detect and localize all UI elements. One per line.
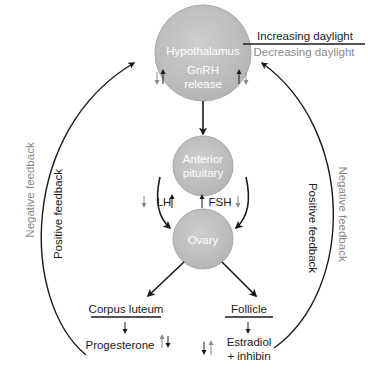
pituitary-label-line2: pituitary: [183, 167, 224, 179]
fsh-decrease-icon: [236, 196, 241, 208]
left-positive-feedback-label: Positive feedback: [52, 169, 64, 259]
hypothalamus-node: Hypothalamus GnRH release: [155, 5, 252, 101]
reproductive-axis-diagram: Hypothalamus GnRH release Anterior pitui…: [0, 0, 368, 380]
pituitary-label-line1: Anterior: [183, 153, 223, 165]
increasing-daylight-label: Increasing daylight: [257, 30, 354, 42]
fsh-label: FSH: [209, 196, 232, 208]
daylight-legend: Increasing daylight Decreasing daylight: [243, 30, 365, 58]
decreasing-daylight-label: Decreasing daylight: [253, 46, 355, 58]
right-negative-feedback-label: Negative feedback: [337, 166, 349, 262]
right-feedback-curve: [262, 63, 333, 348]
lh-decrease-icon: [142, 196, 147, 208]
ovary-label: Ovary: [188, 234, 219, 246]
progesterone-decrease-icon: [166, 336, 171, 348]
ovary-to-corpus-luteum-arrow: [148, 262, 184, 296]
ovary-to-follicle-arrow: [222, 262, 256, 296]
release-label: release: [184, 78, 222, 90]
progesterone-label: Progesterone: [85, 339, 154, 351]
estradiol-decrease-icon: [202, 342, 207, 355]
estradiol-increase-icon: [209, 340, 214, 355]
lh-label: LH: [157, 196, 172, 208]
follicle-label: Follicle: [231, 303, 267, 315]
hypothalamus-label: Hypothalamus: [166, 45, 240, 57]
anterior-pituitary-node: Anterior pituitary: [173, 136, 233, 196]
gnrh-decrease-icon-left: [155, 72, 160, 85]
inhibin-label: + inhibin: [227, 350, 270, 362]
right-positive-feedback-label: Positive feedback: [307, 183, 319, 273]
ovary-node: Ovary: [173, 209, 233, 269]
gnrh-label: GnRH: [187, 64, 219, 76]
estradiol-label: Estradiol: [227, 336, 272, 348]
corpus-luteum-label: Corpus luteum: [89, 303, 164, 315]
left-negative-feedback-label: Negative feedback: [24, 142, 36, 238]
progesterone-increase-icon: [160, 334, 165, 348]
follicle-node: Follicle Estradiol + inhibin: [202, 303, 274, 362]
corpus-luteum-node: Corpus luteum Progesterone: [85, 303, 170, 351]
